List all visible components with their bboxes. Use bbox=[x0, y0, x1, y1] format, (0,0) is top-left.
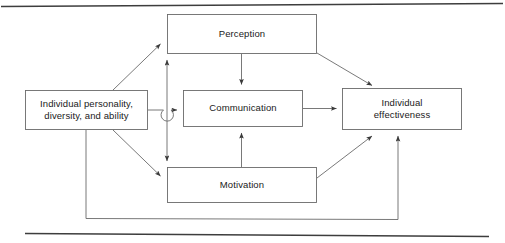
top-rule bbox=[1, 4, 503, 7]
figure-canvas: Individual personality, diversity, and a… bbox=[0, 0, 505, 243]
node-box-individual-effectiveness[interactable] bbox=[343, 89, 462, 130]
edge-motivation-to-effectiveness bbox=[317, 136, 372, 178]
bottom-rule bbox=[25, 234, 489, 237]
diagram-svg bbox=[0, 0, 505, 243]
node-box-motivation[interactable] bbox=[168, 168, 317, 203]
edge-personality-to-communication bbox=[148, 110, 177, 121]
edge-personality-to-motivation bbox=[113, 130, 161, 176]
node-box-individual-personality[interactable] bbox=[26, 91, 148, 130]
edge-personality-to-perception bbox=[113, 44, 161, 90]
node-box-perception[interactable] bbox=[168, 15, 317, 54]
edge-perception-to-effectiveness bbox=[317, 53, 372, 86]
node-box-communication[interactable] bbox=[184, 91, 303, 127]
